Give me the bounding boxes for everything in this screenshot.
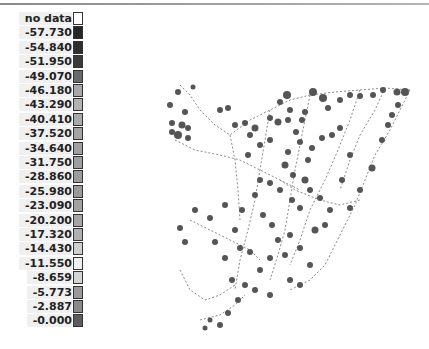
legend-item: -2.887 [14,300,84,313]
legend-item-label: no data [19,12,72,25]
legend-item-label: -28.860 [19,170,72,183]
legend-swatch [73,127,83,140]
legend-swatch [73,199,83,212]
legend-swatch [73,286,83,299]
legend-swatch [73,214,83,227]
legend-item-label: -46.180 [19,84,72,97]
legend-item-label: -2.887 [27,300,72,313]
legend-swatch [73,170,83,183]
legend-swatch [73,242,83,255]
legend-item-label: -23.090 [19,199,72,212]
legend-item-label: -0.000 [27,314,72,327]
legend-item-label: -34.640 [19,142,72,155]
legend-item: -5.773 [14,286,84,299]
legend-item: -49.070 [14,70,84,83]
legend-item: no data [14,12,84,25]
legend-item-label: -40.410 [19,113,72,126]
legend-item-label: -49.070 [19,70,72,83]
legend-swatch [73,12,83,25]
legend-swatch [73,257,83,270]
legend-item-label: -51.950 [19,55,72,68]
legend-item: -8.659 [14,271,84,284]
legend-item-label: -43.290 [19,98,72,111]
legend-swatch [73,84,83,97]
legend-swatch [73,26,83,39]
legend-swatch [73,314,83,327]
legend-item: -28.860 [14,170,84,183]
legend-item: -20.200 [14,214,84,227]
legend-item: -23.090 [14,199,84,212]
legend-swatch [73,185,83,198]
legend-item: -40.410 [14,113,84,126]
legend-swatch [73,113,83,126]
station-dots [167,85,409,331]
legend-item-label: -14.430 [19,242,72,255]
legend-swatch [73,142,83,155]
legend-swatch [73,271,83,284]
legend-swatch [73,98,83,111]
map-canvas [160,80,420,340]
legend-item: -37.520 [14,127,84,140]
legend-item: -57.730 [14,26,84,39]
legend-item: -51.950 [14,55,84,68]
legend-item-label: -54.840 [19,41,72,54]
legend-item-label: -25.980 [19,185,72,198]
legend-item-label: -5.773 [27,286,72,299]
legend-item-label: -20.200 [19,214,72,227]
legend-swatch [73,228,83,241]
top-divider [0,3,429,5]
legend-swatch [73,156,83,169]
river-network-map [160,80,420,340]
legend-item-label: -11.550 [19,257,72,270]
legend-item-label: -37.520 [19,127,72,140]
legend-item: -46.180 [14,84,84,97]
legend-item: -14.430 [14,242,84,255]
legend-swatch [73,70,83,83]
legend-item: -17.320 [14,228,84,241]
legend-item: -54.840 [14,41,84,54]
legend-swatch [73,41,83,54]
legend-item-label: -57.730 [19,26,72,39]
legend-item: -25.980 [14,185,84,198]
legend-item: -34.640 [14,142,84,155]
legend-item: -43.290 [14,98,84,111]
legend-item-label: -17.320 [19,228,72,241]
legend-swatch [73,55,83,68]
legend-item-label: -31.750 [19,156,72,169]
legend-item: -31.750 [14,156,84,169]
legend-item: -0.000 [14,314,84,327]
legend-item: -11.550 [14,257,84,270]
legend-item-label: -8.659 [27,271,72,284]
legend-swatch [73,300,83,313]
